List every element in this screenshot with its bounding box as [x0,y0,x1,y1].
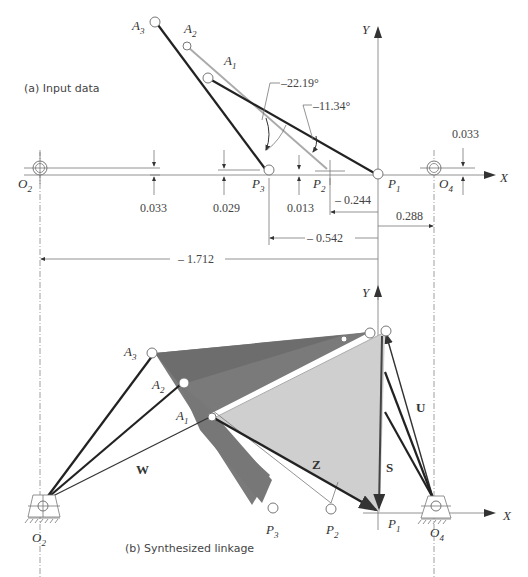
dim-label-o4-y: 0.033 [452,127,479,141]
dim-p3-x: – 0.542 [270,231,378,245]
o2-ground-pivot [25,495,60,523]
a1-joint [203,73,213,83]
linkage-diagram: 0.033 0.029 0.013 0.033 – 0.244 0.288 [0,0,528,577]
angle-alpha3: –11.34° [303,99,351,152]
dim-label-p2-x: – 0.244 [334,193,371,207]
dim-p2-x: – 0.244 [331,193,378,212]
o4-link-3 [385,412,433,498]
a2-p2-line [189,48,327,169]
x-axis-label-b: X [502,508,512,523]
p1-point [373,169,383,179]
o2-pivot [24,152,160,184]
label-p2-b: P2 [325,522,339,540]
a2-joint [183,42,191,50]
upper-joint-small [341,336,347,342]
dim-o2-x: – 1.712 [41,252,378,266]
label-a1-b: A1 [175,408,188,426]
dim-label-o2-x: – 1.712 [177,252,214,266]
dim-o4-x: 0.288 [378,209,433,226]
label-p3-b: P3 [265,522,279,540]
label-o4-b: O4 [430,525,444,543]
label-a2: A2 [183,21,197,39]
caption-a: (a) Input data [24,82,100,95]
p3-point-b [268,503,278,513]
caption-b: (b) Synthesized linkage [125,542,254,555]
dim-o4-y: 0.033 [452,127,479,195]
dim-label-o4-x: 0.288 [396,209,423,223]
label-p3: P3 [251,176,265,194]
label-o2-b: O2 [32,530,46,548]
upper-joint-mid [365,328,375,338]
label-p1: P1 [387,176,400,194]
x-axis-arrow-icon [484,171,496,179]
o4-ground-pivot [418,496,451,524]
label-a3: A3 [131,18,145,36]
label-a2-b: A2 [151,377,165,395]
dim-o2-y: 0.033 [140,150,167,215]
vector-label-u: U [416,400,426,415]
angle-label-alpha3: –11.34° [312,99,351,113]
label-p2: P2 [312,176,326,194]
label-p1-b: P1 [387,516,400,534]
y-axis-arrow-icon [374,26,382,38]
o4-link-2 [385,372,433,498]
o4-pivot [420,161,475,175]
label-o2: O2 [18,176,32,194]
x-axis-label-a: X [499,170,509,185]
o2-a3-link [45,355,153,500]
label-a1: A1 [223,53,236,71]
a1-joint-b [208,413,216,421]
x-axis-arrow-icon [484,509,496,517]
dim-p2-y: 0.013 [287,155,314,215]
label-a3-b: A3 [123,344,137,362]
dim-label-p2-y: 0.013 [287,201,314,215]
upper-joint-right [381,326,391,336]
p3-point [264,165,274,175]
a3-p3-line [158,25,266,170]
dim-p3-y: 0.029 [213,150,240,215]
a2-joint-b [179,378,189,388]
panel-b-synthesized-linkage: W Z U S A3 A2 A1 P3 P2 P1 O2 O4 X Y (b) … [25,285,512,555]
vector-label-w: W [136,462,149,477]
y-axis-label-a: Y [362,22,371,37]
dim-label-o2-y: 0.033 [140,201,167,215]
y-axis-arrow-icon [374,285,382,297]
y-axis-label-b: Y [362,285,371,300]
dim-label-p3-x: – 0.542 [306,231,343,245]
p2-point-b [326,504,336,514]
vector-label-z: Z [312,457,321,472]
vector-label-s: S [386,460,393,475]
angle-label-alpha2: –22.19° [280,76,319,90]
a3-joint [150,17,160,27]
a3-joint-b [147,348,157,358]
dim-label-p3-y: 0.029 [213,201,240,215]
label-o4: O4 [439,176,453,194]
